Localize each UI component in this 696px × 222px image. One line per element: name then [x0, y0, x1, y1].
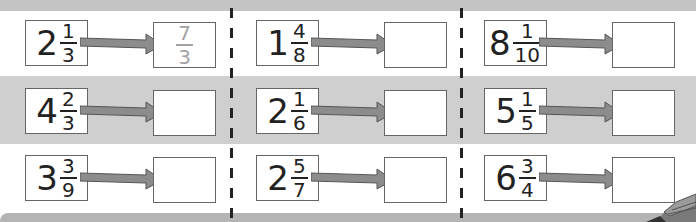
whole-part: 3: [36, 161, 58, 195]
numerator: 1: [60, 21, 77, 42]
whole-part: 8: [489, 26, 511, 60]
denominator: 6: [291, 112, 308, 133]
arrow-right-icon: [80, 33, 164, 55]
fraction: 1 6: [291, 89, 308, 133]
mixed-number-box: 8 1 10: [484, 20, 547, 66]
mixed-number: 2 1 3: [26, 21, 87, 65]
whole-part: 2: [267, 94, 289, 128]
answer-box[interactable]: [384, 157, 447, 203]
answer-box[interactable]: 7 3: [153, 22, 216, 68]
arrow-right-icon: [539, 33, 623, 55]
denominator: 3: [176, 46, 193, 67]
numerator: 3: [519, 156, 536, 177]
mixed-number-box: 2 1 6: [256, 88, 319, 134]
decorative-stack-icon: [646, 182, 696, 222]
numerator: 2: [60, 89, 77, 110]
fraction: 4 8: [291, 21, 308, 65]
answer-box[interactable]: [153, 90, 216, 136]
bottom-strip: [0, 213, 696, 222]
arrow-right-icon: [311, 101, 395, 123]
mixed-number-box: 6 3 4: [484, 155, 547, 201]
fraction: 3 4: [519, 156, 536, 200]
denominator: 4: [519, 179, 536, 200]
fraction: 2 3: [60, 89, 77, 133]
mixed-number-box: 1 4 8: [256, 20, 319, 66]
numerator: 1: [519, 21, 536, 42]
arrow-right-icon: [80, 101, 164, 123]
fraction: 1 10: [513, 21, 542, 65]
mixed-number: 6 3 4: [485, 156, 546, 200]
mixed-number-box: 5 1 5: [484, 88, 547, 134]
fraction: 5 7: [291, 156, 308, 200]
mixed-number: 8 1 10: [485, 21, 546, 65]
mixed-number: 2 5 7: [257, 156, 318, 200]
answer-box[interactable]: [384, 22, 447, 68]
fraction: 1 5: [519, 89, 536, 133]
denominator: 5: [519, 112, 536, 133]
whole-part: 2: [267, 161, 289, 195]
whole-part: 2: [36, 26, 58, 60]
answer-fraction: 7 3: [154, 23, 215, 67]
numerator: 5: [291, 156, 308, 177]
answer-box[interactable]: [612, 90, 675, 136]
denominator: 8: [291, 44, 308, 65]
fraction: 1 3: [60, 21, 77, 65]
denominator: 3: [60, 44, 77, 65]
answer-box[interactable]: [612, 22, 675, 68]
mixed-number-box: 2 5 7: [256, 155, 319, 201]
column-divider-1: [230, 8, 233, 222]
fraction: 3 9: [60, 156, 77, 200]
mixed-number-box: 4 2 3: [25, 88, 88, 134]
whole-part: 1: [267, 26, 289, 60]
numerator: 7: [176, 23, 193, 44]
answer-box[interactable]: [384, 90, 447, 136]
arrow-right-icon: [311, 33, 395, 55]
numerator: 4: [291, 21, 308, 42]
answer-box[interactable]: [153, 157, 216, 203]
mixed-number-box: 2 1 3: [25, 20, 88, 66]
fraction: 7 3: [176, 23, 193, 67]
mixed-number: 3 3 9: [26, 156, 87, 200]
top-strip: [0, 0, 696, 11]
column-divider-2: [460, 8, 463, 222]
denominator: 10: [513, 44, 542, 65]
mixed-number: 5 1 5: [485, 89, 546, 133]
denominator: 7: [291, 179, 308, 200]
arrow-right-icon: [539, 168, 623, 190]
mixed-number-box: 3 3 9: [25, 155, 88, 201]
arrow-right-icon: [311, 168, 395, 190]
mixed-number: 4 2 3: [26, 89, 87, 133]
numerator: 3: [60, 156, 77, 177]
whole-part: 5: [495, 94, 517, 128]
denominator: 3: [60, 112, 77, 133]
arrow-right-icon: [80, 168, 164, 190]
denominator: 9: [60, 179, 77, 200]
arrow-right-icon: [539, 101, 623, 123]
whole-part: 4: [36, 94, 58, 128]
mixed-number: 1 4 8: [257, 21, 318, 65]
numerator: 1: [519, 89, 536, 110]
numerator: 1: [291, 89, 308, 110]
whole-part: 6: [495, 161, 517, 195]
mixed-number: 2 1 6: [257, 89, 318, 133]
